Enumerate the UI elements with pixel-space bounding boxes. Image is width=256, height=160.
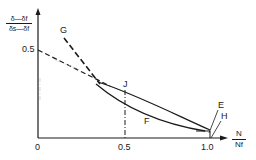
x-axis-arrow-icon [220,136,228,141]
y-axis-label: δ—δf δs—δf [6,15,32,32]
curve-label-h: H [221,112,228,121]
x-tick-0: 0 [35,143,40,152]
curve-label-g: G [60,26,67,35]
curve-f-solid [96,84,205,131]
y-axis-label-denominator: δs—δf [6,24,32,32]
x-tick-0.5: 0.5 [118,143,131,152]
x-axis-label-denominator: Nf [232,140,246,149]
y-axis-arrow-icon [36,8,41,15]
y-tick-0.5: 0.5 [22,45,35,54]
curve-label-f: F [144,117,150,126]
leader-e [209,110,218,133]
end-box [196,131,210,138]
curve-e-solid [98,82,210,130]
x-axis-label: N Nf [232,130,246,149]
x-axis-label-numerator: N [232,130,246,140]
curve-label-j: J [123,80,128,89]
curve-g-dashed [64,38,100,84]
x-tick-1.0: 1.0 [201,143,214,152]
y-axis-label-numerator: δ—δf [6,15,32,24]
curve-label-e: E [218,101,224,110]
diagram-canvas [0,0,256,160]
